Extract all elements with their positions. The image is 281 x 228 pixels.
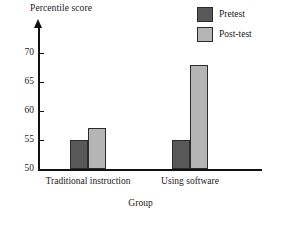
bar-post-test xyxy=(88,128,106,169)
y-axis-tick xyxy=(38,53,44,54)
bar-pretest xyxy=(70,140,88,169)
x-axis-line xyxy=(38,169,262,171)
bar-chart: Percentile score Pretest Post-test 50556… xyxy=(0,0,281,228)
bar-pretest xyxy=(172,140,190,169)
y-axis-tick-label: 70 xyxy=(0,48,34,58)
y-axis-tick-label: 55 xyxy=(0,135,34,145)
bar-post-test xyxy=(190,65,208,169)
y-axis-tick xyxy=(38,140,44,141)
x-axis-category-label: Using software xyxy=(120,176,260,186)
y-axis-tick xyxy=(38,111,44,112)
y-axis-tick-label: 60 xyxy=(0,106,34,116)
x-axis-title: Group xyxy=(0,198,281,208)
y-axis-tick-label: 50 xyxy=(0,164,34,174)
y-axis-tick xyxy=(38,169,44,170)
y-axis-tick xyxy=(38,82,44,83)
plot-area: 5055606570 Traditional instructionUsing … xyxy=(0,0,281,228)
y-axis-line xyxy=(38,26,40,170)
y-axis-arrow-icon xyxy=(34,19,42,28)
y-axis-tick-label: 65 xyxy=(0,77,34,87)
